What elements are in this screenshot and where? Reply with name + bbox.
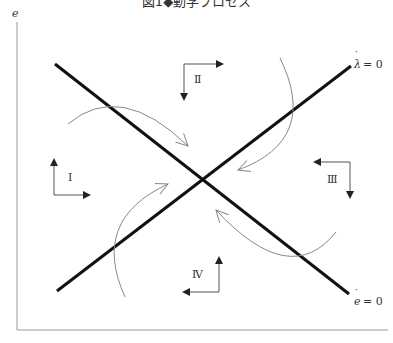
trajectory-curve-i [68, 106, 188, 146]
svg-text:= 0: = 0 [363, 295, 383, 308]
phase-diagram: e λ · = 0 e · = 0 Ⅰ Ⅱ Ⅲ Ⅳ [0, 0, 393, 343]
region-iii-direction-arrows: Ⅲ [315, 162, 350, 197]
svg-text:·: · [355, 47, 358, 57]
y-axis-label: e [12, 7, 19, 20]
region-iv-direction-arrows: Ⅳ [184, 258, 219, 292]
svg-text:= 0: = 0 [363, 58, 383, 71]
trajectory-curve-ii [238, 58, 293, 170]
e-dot-label: e · = 0 [354, 285, 383, 308]
svg-text:·: · [355, 285, 358, 295]
region-iv-label: Ⅳ [192, 268, 204, 281]
svg-text:e: e [354, 295, 361, 308]
svg-text:λ: λ [353, 58, 361, 71]
region-i-label: Ⅰ [68, 171, 72, 184]
region-ii-label: Ⅱ [194, 73, 201, 86]
region-i-direction-arrows: Ⅰ [54, 160, 89, 195]
region-iii-label: Ⅲ [327, 173, 338, 186]
region-ii-direction-arrows: Ⅱ [184, 64, 222, 99]
lambda-dot-label: λ · = 0 [353, 47, 383, 71]
trajectory-curve-iii [216, 210, 336, 256]
